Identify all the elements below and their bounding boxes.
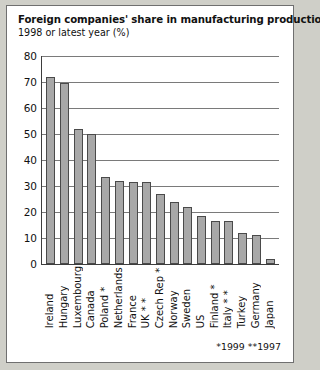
x-tick-label: Finland * [208,266,221,328]
bar-slot [44,56,58,264]
bar [238,233,247,264]
y-tick-label: 30 [24,180,37,192]
x-label-slot: Ireland [43,266,57,328]
bar-slot [195,56,209,264]
bar-slot [181,56,195,264]
bar-slot [71,56,85,264]
x-label-slot: France [125,266,139,328]
bar-slot [250,56,264,264]
x-label-slot: US [194,266,208,328]
bar [87,134,96,264]
bar-slot [154,56,168,264]
x-label-slot: Germany [249,266,263,328]
x-label-slot: Czech Rep * [153,266,167,328]
x-tick-label: Czech Rep * [153,266,166,328]
y-tick-label: 60 [24,102,37,114]
x-label-slot: Turkey [235,266,249,328]
chart-subtitle: 1998 or latest year (%) [18,27,285,39]
y-tick-label: 40 [24,154,37,166]
y-tick-label: 10 [24,232,37,244]
y-tick-label: 20 [24,206,37,218]
bar [74,129,83,264]
x-tick-label: Italy * * [221,266,234,328]
bar [101,177,110,264]
footnote: *1999 **1997 [216,341,281,352]
gridline-0: 0 [42,264,279,265]
bar [156,194,165,264]
x-tick-label: Luxembourg [71,266,84,328]
x-tick-label: Poland * [98,266,111,328]
bar [142,182,151,264]
x-tick-label: US [194,266,207,328]
bar [266,259,275,264]
x-axis-labels: IrelandHungaryLuxembourgCanadaPoland *Ne… [41,266,278,328]
x-label-slot: Netherlands [112,266,126,328]
plot-area: 80706050403020100 [41,56,279,265]
x-tick-label: Sweden [180,266,193,328]
bar-slot [126,56,140,264]
bar-slot [140,56,154,264]
x-tick-label: Germany [249,266,262,328]
y-tick-label: 70 [24,76,37,88]
bar-slot [222,56,236,264]
x-label-slot: Luxembourg [70,266,84,328]
x-tick-label: Canada [84,266,97,328]
bar-slot [58,56,72,264]
bar-slot [263,56,277,264]
bar [211,221,220,264]
bar-slot [208,56,222,264]
x-label-slot: Canada [84,266,98,328]
y-tick-label: 0 [30,258,37,270]
x-tick-label: Netherlands [112,266,125,328]
bar [183,207,192,264]
x-tick-label: Hungary [57,266,70,328]
bar [60,83,69,264]
bar-slot [236,56,250,264]
bar-slot [85,56,99,264]
bar-slot [113,56,127,264]
x-tick-label: France [126,266,139,328]
x-label-slot: UK * * [139,266,153,328]
x-tick-label: UK * * [139,266,152,328]
bar [197,216,206,264]
x-label-slot: Sweden [180,266,194,328]
y-tick-label: 50 [24,128,37,140]
x-tick-label: Turkey [235,266,248,328]
chart-title: Foreign companies' share in manufacturin… [18,14,285,26]
bar [46,77,55,264]
bar [129,182,138,264]
y-tick-label: 80 [24,50,37,62]
x-tick-label: Japan [263,266,276,328]
x-tick-label: Norway [167,266,180,328]
x-tick-label: Ireland [43,266,56,328]
bar [224,221,233,264]
x-label-slot: Norway [166,266,180,328]
bar [170,202,179,264]
bar-slot [99,56,113,264]
x-label-slot: Japan [262,266,276,328]
x-label-slot: Italy * * [221,266,235,328]
chart-figure: Foreign companies' share in manufacturin… [6,5,294,363]
x-label-slot: Poland * [98,266,112,328]
bar [252,235,261,264]
bar-slot [167,56,181,264]
bar [115,181,124,264]
x-label-slot: Hungary [57,266,71,328]
title-block: Foreign companies' share in manufacturin… [18,14,285,39]
bar-series [42,56,279,264]
x-label-slot: Finland * [207,266,221,328]
